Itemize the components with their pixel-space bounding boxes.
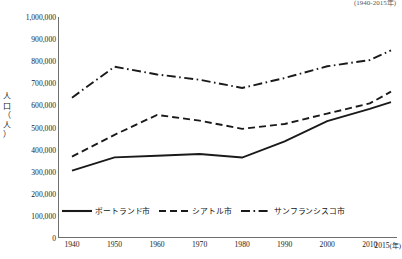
legend-swatch-icon	[159, 207, 189, 215]
x-axis-tick-label: 1980	[235, 240, 250, 249]
x-axis-tick-label: 1970	[192, 240, 207, 249]
y-axis-tick-label: 100,000	[12, 211, 56, 220]
legend-swatch-icon	[241, 207, 271, 215]
y-axis-tick-labels: 0100,000200,000300,000400,000500,000600,…	[10, 0, 56, 259]
x-axis-tick-label: 1990	[277, 240, 292, 249]
x-axis-tick-labels: 194019501960197019801990200020102015(年)	[0, 240, 402, 256]
x-axis-tick-label: 1950	[107, 240, 122, 249]
series-line	[72, 102, 391, 171]
chart-figure: (1940-2015年) 人 口 （ 人 ） 0100,000200,00030…	[0, 0, 402, 259]
y-axis-tick-label: 600,000	[12, 101, 56, 110]
y-axis-tick-label: 400,000	[12, 145, 56, 154]
legend-item: サンフランシスコ市	[241, 205, 345, 216]
legend-swatch-icon	[62, 207, 92, 215]
y-axis-tick-label: 700,000	[12, 79, 56, 88]
legend-label: ポートランド市	[95, 205, 150, 216]
y-axis-tick-label: 500,000	[12, 123, 56, 132]
series-line	[72, 92, 391, 157]
x-axis-unit-label: (年)	[390, 242, 402, 250]
legend-label: シアトル市	[192, 205, 232, 216]
chart-subtitle: (1940-2015年)	[354, 0, 396, 7]
x-axis-tick-label: 2000	[320, 240, 335, 249]
y-axis-tick-label: 300,000	[12, 167, 56, 176]
y-axis-tick-label: 1,000,000	[12, 13, 56, 22]
x-axis-tick-label: 1940	[64, 240, 79, 249]
legend-item: ポートランド市	[62, 205, 150, 216]
x-axis-tick-label: 1960	[149, 240, 164, 249]
y-axis-tick-label: 900,000	[12, 35, 56, 44]
legend-label: サンフランシスコ市	[274, 205, 345, 216]
legend-item: シアトル市	[159, 205, 232, 216]
y-axis-tick-label: 800,000	[12, 57, 56, 66]
chart-legend: ポートランド市シアトル市サンフランシスコ市	[62, 205, 345, 216]
y-axis-tick-label: 200,000	[12, 189, 56, 198]
x-axis-tick-label: 2015(年)	[374, 240, 401, 250]
series-line	[72, 50, 391, 97]
